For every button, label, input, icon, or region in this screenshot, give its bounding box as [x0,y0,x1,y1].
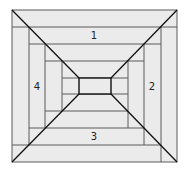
label-1: 1 [91,30,97,41]
tunnel-diagram: 1 2 3 4 [0,0,188,170]
label-2: 2 [149,81,155,92]
inner-rectangle [79,78,111,94]
diagram-canvas: 1 2 3 4 [0,0,188,170]
label-4: 4 [34,81,40,92]
label-3: 3 [91,131,97,142]
